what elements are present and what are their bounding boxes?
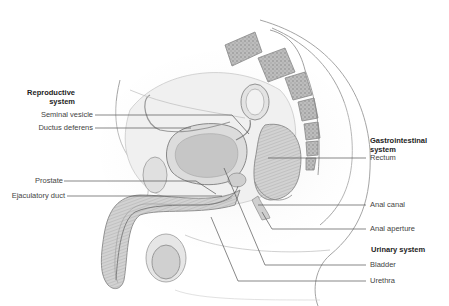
anatomy-figure: Reproductive system Seminal vesicle Duct…: [0, 0, 449, 306]
group-title-reproductive: Reproductive system: [20, 88, 75, 106]
testis: [152, 245, 180, 279]
rectum: [254, 124, 301, 200]
label-ductus-deferens: Ductus deferens: [38, 123, 93, 132]
group-title-reproductive-line2: system: [20, 97, 75, 106]
label-bladder: Bladder: [370, 260, 396, 269]
group-title-gastrointestinal-line1: Gastrointestinal: [370, 136, 427, 145]
label-rectum: Rectum: [370, 153, 396, 162]
label-anal-aperture: Anal aperture: [370, 224, 415, 233]
label-prostate: Prostate: [35, 176, 63, 185]
label-urethra: Urethra: [370, 276, 395, 285]
label-ejaculatory-duct: Ejaculatory duct: [12, 191, 65, 200]
group-title-urinary: Urinary system: [371, 245, 425, 254]
label-anal-canal: Anal canal: [370, 200, 405, 209]
group-title-reproductive-line1: Reproductive: [20, 88, 75, 97]
group-title-gastrointestinal: Gastrointestinal system: [370, 136, 427, 154]
label-seminal-vesicle: Seminal vesicle: [41, 110, 93, 119]
prostate: [228, 173, 246, 187]
